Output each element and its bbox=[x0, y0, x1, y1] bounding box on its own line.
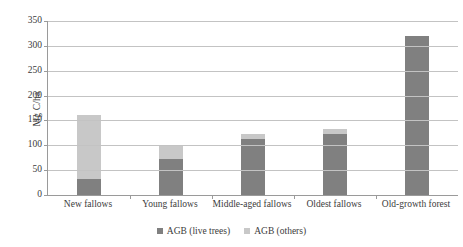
legend-swatch-icon bbox=[157, 228, 163, 234]
y-axis-tick bbox=[44, 21, 48, 22]
bar-group bbox=[241, 21, 266, 195]
x-axis-category-label: Old-growth forest bbox=[382, 199, 450, 209]
x-axis-category-label: Oldest fallows bbox=[306, 199, 361, 209]
bar-stack bbox=[77, 115, 102, 195]
gridline bbox=[48, 21, 458, 22]
y-axis-tick-label: 300 bbox=[28, 41, 42, 51]
x-axis-labels: New fallowsYoung fallowsMiddle-aged fall… bbox=[47, 199, 458, 217]
bar-stack bbox=[323, 129, 348, 195]
y-axis-tick bbox=[44, 145, 48, 146]
gridline bbox=[48, 120, 458, 121]
y-axis-tick-label: 200 bbox=[28, 91, 42, 101]
bar-group bbox=[405, 21, 430, 195]
bar-segment bbox=[77, 179, 102, 195]
bar-group bbox=[159, 21, 184, 195]
gridline bbox=[48, 170, 458, 171]
y-axis-tick-label: 100 bbox=[28, 141, 42, 151]
bar-segment bbox=[241, 139, 266, 195]
y-axis-tick bbox=[44, 46, 48, 47]
y-axis-title: Mg C/ha bbox=[32, 74, 42, 144]
x-axis-category-label: New fallows bbox=[64, 199, 112, 209]
y-axis-tick bbox=[44, 195, 48, 196]
y-axis-tick bbox=[44, 170, 48, 171]
plot-area: 050100150200250300350 bbox=[47, 21, 458, 196]
bar-segment bbox=[77, 115, 102, 178]
legend-label: AGB (others) bbox=[254, 226, 306, 236]
gridline bbox=[48, 145, 458, 146]
bar-segment bbox=[159, 159, 184, 195]
y-axis-tick bbox=[44, 96, 48, 97]
bar-stack bbox=[241, 134, 266, 195]
gridline bbox=[48, 46, 458, 47]
y-axis-tick-label: 250 bbox=[28, 66, 42, 76]
bar-group bbox=[77, 21, 102, 195]
legend-item[interactable]: AGB (live trees) bbox=[157, 226, 230, 236]
legend-item[interactable]: AGB (others) bbox=[244, 226, 306, 236]
bar-chart: Mg C/ha 050100150200250300350 New fallow… bbox=[0, 0, 463, 247]
y-axis-tick-label: 350 bbox=[28, 16, 42, 26]
gridline bbox=[48, 71, 458, 72]
x-axis-category-label: Middle-aged fallows bbox=[213, 199, 292, 209]
bar-segment bbox=[323, 134, 348, 195]
bars-layer bbox=[48, 21, 458, 195]
y-axis-tick-label: 150 bbox=[28, 116, 42, 126]
y-axis-tick bbox=[44, 71, 48, 72]
bar-group bbox=[323, 21, 348, 195]
legend-swatch-icon bbox=[244, 228, 250, 234]
gridline bbox=[48, 96, 458, 97]
y-axis-tick-label: 0 bbox=[37, 190, 42, 200]
x-axis-category-label: Young fallows bbox=[142, 199, 197, 209]
bar-segment bbox=[159, 146, 184, 159]
y-axis-tick-label: 50 bbox=[33, 165, 43, 175]
legend-label: AGB (live trees) bbox=[167, 226, 230, 236]
y-axis-tick bbox=[44, 120, 48, 121]
chart-legend: AGB (live trees)AGB (others) bbox=[0, 226, 463, 236]
